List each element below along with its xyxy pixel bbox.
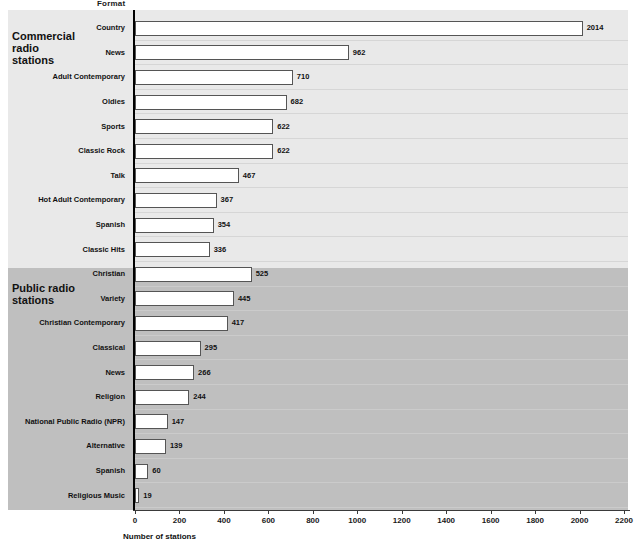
bar [135,218,214,233]
x-tick-label: 600 [262,516,275,525]
bar-value-label: 354 [218,220,231,229]
bar-value-label: 710 [297,72,310,81]
bar [135,144,273,159]
bar [135,95,287,110]
bar [135,291,234,306]
bar-row: Alternative139 [8,434,628,459]
category-label: Christian Contemporary [39,318,125,327]
x-tick-label: 2000 [571,516,589,525]
category-label: Classic Rock [78,146,125,155]
bar [135,365,194,380]
plot-area: Commercial radio stations Public radio s… [8,10,628,510]
category-label: Spanish [96,220,125,229]
x-tick [179,510,180,514]
bar-value-label: 962 [353,48,366,57]
bar-value-label: 417 [232,318,245,327]
category-label: Variety [100,294,125,303]
bar [135,341,201,356]
bar-value-label: 525 [256,269,269,278]
x-tick-label: 800 [306,516,319,525]
bar-value-label: 139 [170,441,183,450]
bar-value-label: 622 [277,122,290,131]
bar-value-label: 467 [243,171,256,180]
bar-row: News962 [8,41,628,66]
x-tick [224,510,225,514]
category-label: Sports [101,122,125,131]
bar [135,242,210,257]
bar [135,45,349,60]
bar-value-label: 682 [291,97,304,106]
category-label: Oldies [102,97,125,106]
bar-row: Classic Hits336 [8,237,628,262]
bar-row: Country2014 [8,16,628,41]
bar [135,390,189,405]
x-tick-label: 400 [217,516,230,525]
row-separator [135,507,628,508]
bar-row: Classic Rock622 [8,139,628,164]
bar-row: News266 [8,360,628,385]
bar-row: Hot Adult Contemporary367 [8,188,628,213]
category-label: Classic Hits [82,245,125,254]
bar-value-label: 295 [205,343,218,352]
category-label: Talk [111,171,125,180]
bar-row: Sports622 [8,114,628,139]
bar [135,168,239,183]
x-tick [135,510,136,514]
category-label: Hot Adult Contemporary [38,195,125,204]
bar-row: Christian Contemporary417 [8,311,628,336]
category-label: News [105,48,125,57]
x-tick-label: 1600 [482,516,500,525]
category-label: National Public Radio (NPR) [25,417,125,426]
bar-value-label: 445 [238,294,251,303]
x-axis-title: Number of stations [123,532,196,541]
category-label: Spanish [96,466,125,475]
category-label: Christian [92,269,125,278]
bar [135,21,583,36]
bar-row: Oldies682 [8,90,628,115]
x-tick [268,510,269,514]
bar [135,488,139,503]
category-label: Religious Music [68,491,125,500]
x-tick-label: 1800 [526,516,544,525]
category-axis-line [133,10,135,510]
x-tick-label: 2200 [615,516,633,525]
bar-value-label: 2014 [587,23,604,32]
bar-row: Religion244 [8,385,628,410]
bar-value-label: 622 [277,146,290,155]
bar [135,414,168,429]
bar-row: Spanish60 [8,459,628,484]
bar-value-label: 367 [221,195,234,204]
bar [135,193,217,208]
bar-value-label: 19 [143,491,151,500]
x-tick [535,510,536,514]
category-label: Religion [95,392,125,401]
x-tick [357,510,358,514]
bar-row: Talk467 [8,164,628,189]
bar-row: Variety445 [8,287,628,312]
bar [135,119,273,134]
category-label: Adult Contemporary [52,72,125,81]
x-tick-label: 0 [133,516,137,525]
bar [135,267,252,282]
category-label: Country [96,23,125,32]
bar [135,70,293,85]
x-tick [313,510,314,514]
bar-row: Spanish354 [8,213,628,238]
category-label: Classical [92,343,125,352]
bar-row: Christian525 [8,262,628,287]
bar [135,439,166,454]
bar-row: Religious Music19 [8,483,628,508]
x-axis-line [133,510,630,511]
x-tick [402,510,403,514]
x-tick-label: 1200 [393,516,411,525]
bar-value-label: 244 [193,392,206,401]
bar-value-label: 147 [172,417,185,426]
x-tick-label: 1400 [437,516,455,525]
x-tick [446,510,447,514]
x-tick [580,510,581,514]
bar [135,464,148,479]
bar-row: Classical295 [8,336,628,361]
bar-chart: Format Commercial radio stations Public … [0,0,634,555]
x-tick [624,510,625,514]
bar-value-label: 266 [198,368,211,377]
